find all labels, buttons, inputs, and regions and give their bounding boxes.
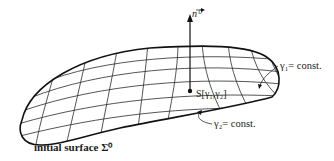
- gamma2-line: [22, 81, 282, 111]
- surface-caption: initial surface Σ⁰: [34, 141, 112, 154]
- gamma1-curve-label: γ₁= const.: [280, 60, 322, 71]
- gamma1-line: [98, 45, 118, 150]
- coordinate-grid: [18, 42, 290, 150]
- gamma2-line: [40, 57, 282, 84]
- vector-overarrow-icon: [201, 8, 205, 12]
- surface-point-dot: [188, 89, 192, 93]
- gamma1-line: [135, 43, 148, 150]
- gamma1-line: [65, 50, 88, 150]
- leader-arrow-icon: [197, 110, 202, 115]
- gamma1-line: [35, 60, 58, 150]
- normal-vector-label: n⁰: [192, 8, 201, 19]
- gamma2-curve-label: γ₂= const.: [214, 118, 256, 129]
- surface-point-label: S[γ₁,γ₂]: [196, 88, 227, 99]
- surface-diagram: n⁰ S[γ₁,γ₂] γ₁= const. γ₂= const. initia…: [0, 0, 334, 161]
- surface-boundary: [20, 46, 279, 145]
- leader-arrow-icon: [258, 84, 262, 89]
- diagram-drawing: [0, 0, 334, 161]
- gamma2-line: [30, 68, 282, 98]
